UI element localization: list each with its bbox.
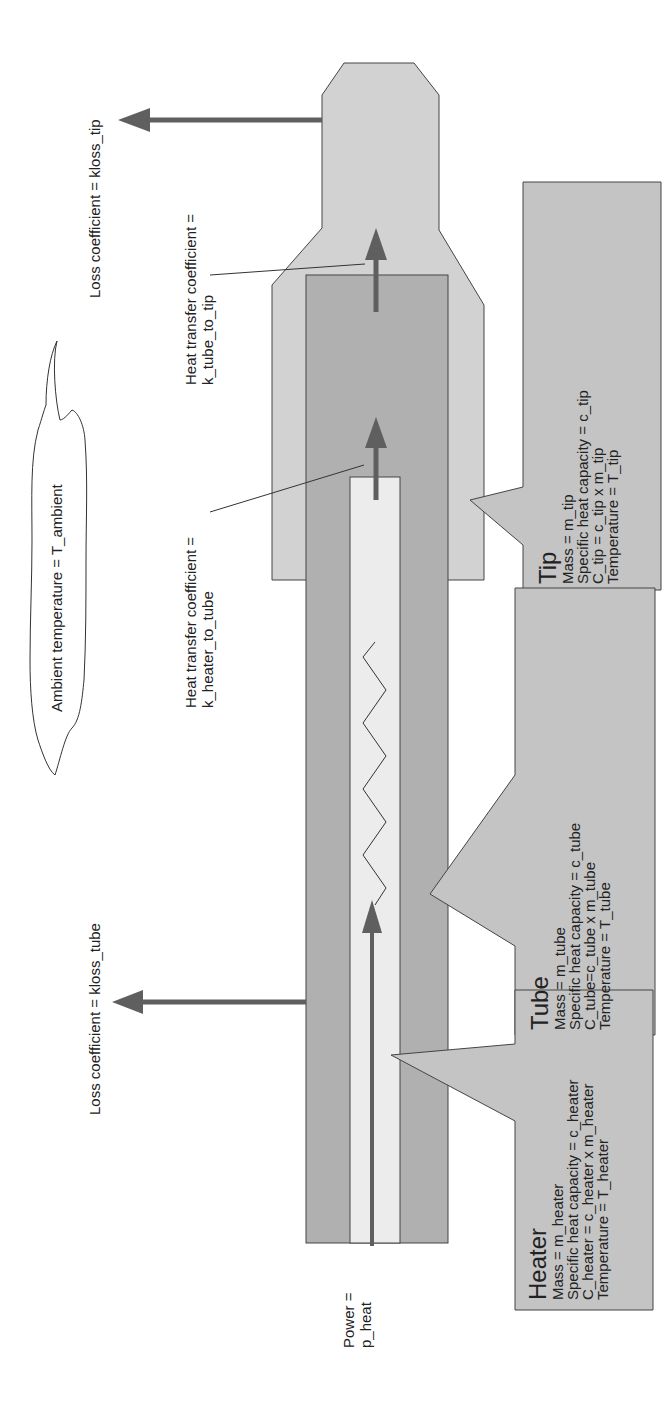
heater-mass: Mass = m_heater	[550, 1079, 565, 1300]
tip-callout-title: Tip	[536, 390, 560, 584]
tube-temperature: Temperature = T_tube	[597, 823, 612, 1030]
heater-callout-title: Heater	[526, 1079, 550, 1300]
tip-temperature: Temperature = T_tip	[605, 390, 620, 584]
tip-callout-text: Tip Mass = m_tip Specific heat capacity …	[536, 390, 620, 584]
loss-tip-label: Loss coefficient = kloss_tip	[86, 119, 103, 298]
heater-callout-text: Heater Mass = m_heater Specific heat cap…	[526, 1079, 610, 1300]
tube-callout-text: Tube Mass = m_tube Specific heat capacit…	[528, 823, 612, 1030]
k-tube-to-tip-label: Heat transfer coefficient = k_tube_to_ti…	[182, 214, 216, 385]
loss-tip-arrow-head	[118, 108, 150, 132]
k-tube-to-tip-line1: Heat transfer coefficient =	[182, 214, 199, 385]
k-heater-to-tube-line2: k_heater_to_tube	[199, 537, 216, 708]
loss-tube-arrow-head	[112, 990, 143, 1014]
tube-capacity: C_tube=c_tube x m_tube	[582, 823, 597, 1030]
heater-element	[350, 477, 400, 1243]
power-line1: Power =	[340, 1293, 357, 1348]
tube-mass: Mass = m_tube	[552, 823, 567, 1030]
ambient-temperature-label: Ambient temperature = T_ambient	[48, 484, 65, 712]
loss-tube-label: Loss coefficient = kloss_tube	[86, 923, 103, 1115]
heater-temperature: Temperature = T_heater	[595, 1079, 610, 1300]
heater-capacity: C_heater = c_heater x m_heater	[580, 1079, 595, 1300]
k-heater-to-tube-label: Heat transfer coefficient = k_heater_to_…	[182, 537, 216, 708]
tip-mass: Mass = m_tip	[560, 390, 575, 584]
tip-capacity: C_tip = c_tip x m_tip	[590, 390, 605, 584]
power-label: Power = p_heat	[340, 1293, 374, 1348]
tube-specific-heat: Specific heat capacity = c_tube	[567, 823, 582, 1030]
k-heater-to-tube-line1: Heat transfer coefficient =	[182, 537, 199, 708]
tube-callout-title: Tube	[528, 823, 552, 1030]
power-line2: p_heat	[357, 1293, 374, 1348]
heater-specific-heat: Specific heat capacity = c_heater	[565, 1079, 580, 1300]
k-tube-to-tip-line2: k_tube_to_tip	[199, 214, 216, 385]
tip-specific-heat: Specific heat capacity = c_tip	[575, 390, 590, 584]
